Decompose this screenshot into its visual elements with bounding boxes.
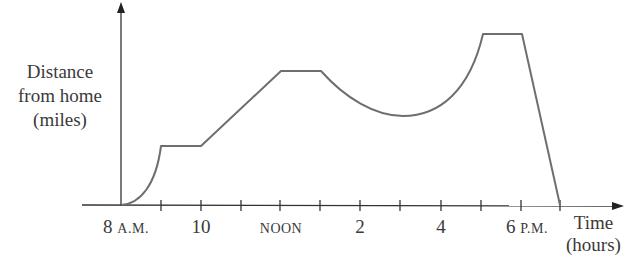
y-axis-label: Distance from home (miles) — [0, 60, 120, 132]
y-label-line-2: from home — [0, 84, 120, 108]
tick-label-6pm: 6 P.M. — [506, 216, 548, 238]
x-axis-arrow-icon — [612, 202, 624, 210]
tick-label-2: 2 — [355, 216, 365, 238]
x-axis-label: Time (hours) — [566, 212, 621, 256]
tick-label-noon: NOON — [260, 221, 302, 237]
y-label-line-1: Distance — [0, 60, 120, 84]
y-axis-arrow-icon — [117, 2, 125, 13]
x-label-line-2: (hours) — [566, 234, 621, 256]
tick-label-4: 4 — [436, 216, 446, 238]
tick-label-8am: 8 A.M. — [103, 216, 149, 238]
x-axis — [82, 205, 614, 206]
tick-label-10: 10 — [192, 216, 211, 238]
distance-curve — [121, 34, 560, 205]
x-label-line-1: Time — [566, 212, 621, 234]
y-label-line-3: (miles) — [0, 108, 120, 132]
